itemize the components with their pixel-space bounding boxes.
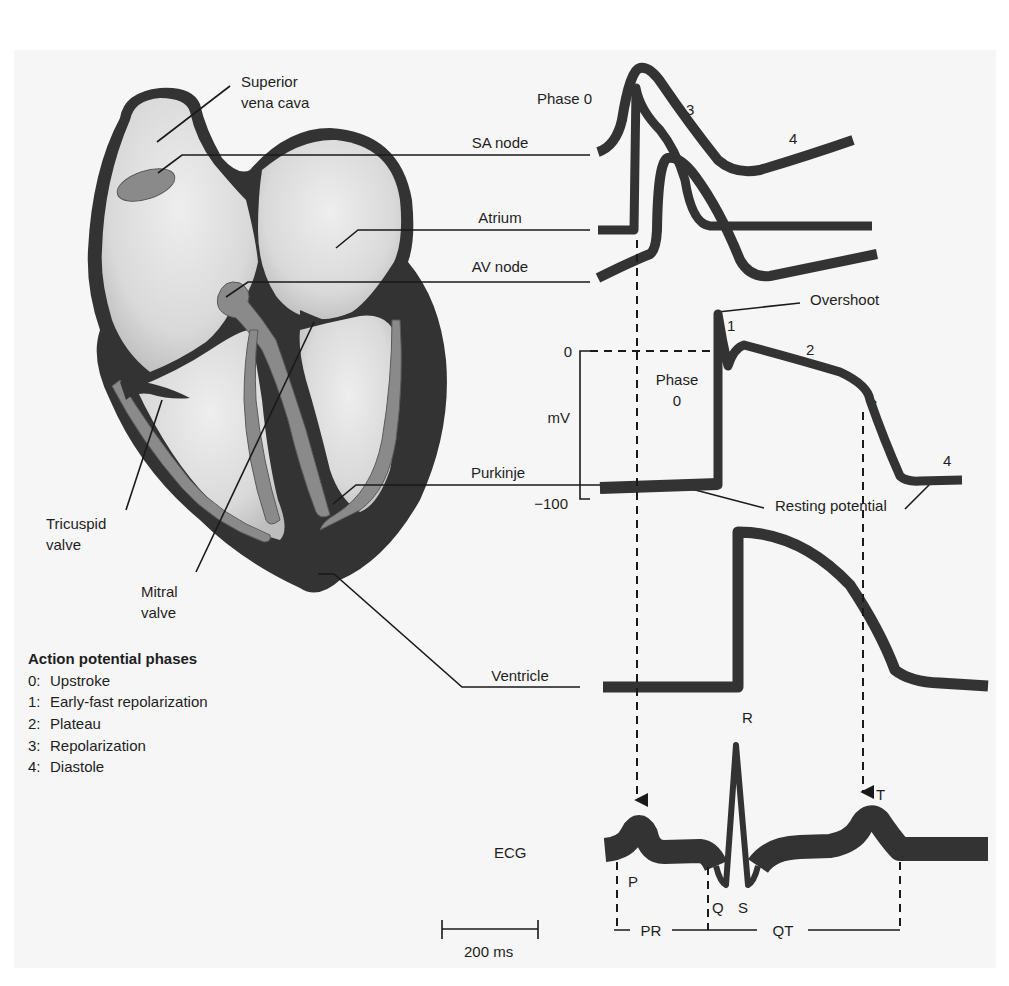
legend-text-4: Diastole	[50, 758, 104, 775]
resting-potential-label: Resting potential	[775, 497, 887, 514]
atrium-label: Atrium	[478, 209, 521, 226]
svc-label-line2: vena cava	[241, 94, 310, 111]
purkinje-phase0-label-line1: Phase	[656, 371, 699, 388]
legend-text-3: Repolarization	[50, 737, 146, 754]
purkinje-phase0-label-line2: 0	[673, 392, 681, 409]
sa-phase4-label: 4	[789, 130, 797, 147]
svc-label-line1: Superior	[241, 73, 298, 90]
legend-key-1: 1:	[28, 693, 41, 710]
purkinje-label: Purkinje	[471, 464, 525, 481]
av-node-label: AV node	[472, 258, 528, 275]
ecg-t-label: T	[876, 786, 885, 803]
purkinje-resting-segment	[600, 484, 718, 488]
sa-phase0-label: Phase 0	[537, 90, 592, 107]
scale-bar-label: 200 ms	[464, 943, 513, 960]
ecg-p-label: P	[628, 873, 638, 890]
legend-key-2: 2:	[28, 715, 41, 732]
ecg-q-label: Q	[712, 899, 724, 916]
tricuspid-label-line2: valve	[46, 536, 81, 553]
legend-text-0: Upstroke	[50, 672, 110, 689]
qt-interval-label: QT	[773, 922, 794, 939]
purkinje-phase1-label: 1	[727, 317, 735, 334]
legend-key-4: 4:	[28, 758, 41, 775]
tricuspid-label-line1: Tricuspid	[46, 515, 106, 532]
ecg-r-label: R	[742, 709, 753, 726]
purkinje-phase2-label: 2	[806, 341, 814, 358]
ecg-label: ECG	[494, 844, 527, 861]
cardiac-conduction-figure: Superior vena cava Tricuspid valve Mitra…	[0, 0, 1009, 986]
legend-key-3: 3:	[28, 737, 41, 754]
legend-title: Action potential phases	[28, 650, 197, 667]
mitral-label-line1: Mitral	[141, 583, 178, 600]
pr-interval-label: PR	[641, 922, 662, 939]
overshoot-label: Overshoot	[810, 291, 880, 308]
ventricle-label: Ventricle	[491, 667, 549, 684]
legend-text-1: Early-fast repolarization	[50, 693, 208, 710]
mv-axis-bottom-label: −100	[534, 495, 568, 512]
ecg-s-label: S	[738, 899, 748, 916]
legend-text-2: Plateau	[50, 715, 101, 732]
mitral-label-line2: valve	[141, 604, 176, 621]
sa-node-label: SA node	[472, 134, 529, 151]
mv-axis-top-label: 0	[564, 343, 572, 360]
legend-key-0: 0:	[28, 672, 41, 689]
mv-axis-unit-label: mV	[548, 409, 571, 426]
purkinje-phase4-label: 4	[943, 452, 951, 469]
